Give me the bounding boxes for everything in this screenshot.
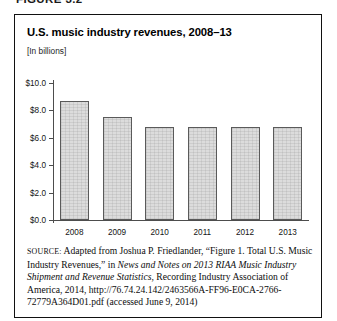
- bar-2013: [273, 127, 302, 220]
- bar-slot: 2013: [266, 83, 309, 220]
- source-label: SOURCE:: [27, 247, 62, 256]
- y-axis-tick-label: $2.0: [30, 188, 46, 197]
- chart-title: U.S. music industry revenues, 2008–13: [27, 26, 232, 38]
- x-axis-tick-label: 2008: [65, 228, 83, 237]
- x-axis-tick-label: 2010: [151, 228, 169, 237]
- x-axis-line: [53, 220, 309, 221]
- figure-number-header: FIGURE 3.2: [16, 0, 83, 5]
- chart-units-label: [In billions]: [27, 46, 66, 56]
- x-axis-tick-label: 2011: [194, 228, 212, 237]
- bar-2011: [188, 127, 217, 220]
- bar-2012: [231, 127, 260, 220]
- y-axis-tick-label: $6.0: [30, 133, 46, 142]
- bar-series: 200820092010201120122013: [53, 83, 309, 220]
- x-axis-tick-label: 2009: [108, 228, 126, 237]
- chart-plot-area: $0.0$2.0$4.0$6.0$8.0$10.0 20082009201020…: [53, 83, 309, 220]
- x-axis-tick-label: 2013: [279, 228, 297, 237]
- y-axis-tick-label: $8.0: [30, 106, 46, 115]
- bar-slot: 2010: [138, 83, 181, 220]
- bar-slot: 2008: [53, 83, 96, 220]
- y-axis-tick: [49, 220, 54, 221]
- y-axis-tick-label: $0.0: [30, 216, 46, 225]
- figure-box: U.S. music industry revenues, 2008–13 [I…: [14, 14, 322, 318]
- bar-2010: [145, 127, 174, 220]
- y-axis-tick-label: $10.0: [26, 79, 47, 88]
- source-note: SOURCE: Adapted from Joshua P. Friedland…: [27, 245, 315, 309]
- bar-slot: 2009: [96, 83, 139, 220]
- x-axis-tick-label: 2012: [236, 228, 254, 237]
- bar-slot: 2011: [181, 83, 224, 220]
- y-axis-tick-label: $4.0: [30, 161, 46, 170]
- bar-slot: 2012: [224, 83, 267, 220]
- bar-2009: [103, 117, 132, 220]
- bar-2008: [60, 101, 89, 220]
